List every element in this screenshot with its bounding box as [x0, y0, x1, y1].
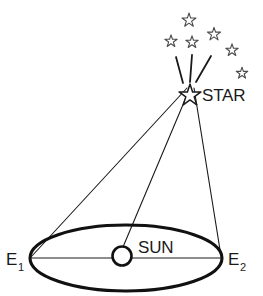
diagram-canvas: STAR SUN E 1 E 2: [0, 0, 263, 296]
background-star-icon: [207, 27, 220, 39]
background-star-icon: [226, 44, 238, 56]
sight-line-e2-to-star: [194, 88, 221, 256]
star-icon: [179, 84, 201, 105]
background-stars-group: [165, 13, 248, 78]
star-ray-3: [196, 56, 211, 82]
earth-1-label-subscript: 1: [18, 261, 24, 273]
star-ray-1: [176, 57, 183, 83]
sun-label: SUN: [138, 238, 173, 257]
star-rays-group: [176, 55, 211, 83]
star-label: STAR: [202, 86, 245, 105]
sun-circle: [113, 247, 132, 266]
sight-line-sun-to-star: [123, 88, 190, 247]
earth-1-label: E: [6, 250, 17, 269]
background-star-icon: [182, 13, 196, 26]
background-star-icon: [165, 35, 177, 47]
sight-lines-group: [31, 88, 221, 257]
sight-line-e1-to-star: [31, 88, 187, 257]
star-ray-2: [190, 55, 192, 82]
background-star-icon: [186, 36, 198, 48]
parallax-diagram: STAR SUN E 1 E 2: [0, 0, 263, 296]
earth-2-label: E: [228, 250, 239, 269]
earth-2-label-subscript: 2: [240, 261, 246, 273]
background-star-icon: [236, 67, 248, 78]
